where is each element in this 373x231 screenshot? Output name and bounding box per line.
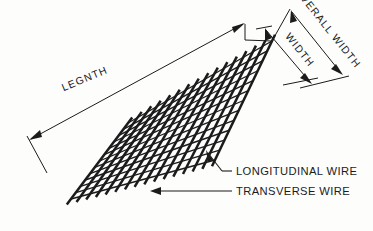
width-arrowhead-bottom xyxy=(300,73,312,84)
width-extension-top xyxy=(256,26,272,29)
overall-width-arrowhead-bottom xyxy=(331,64,343,75)
length-extension-line-left xyxy=(27,136,47,173)
longitudinal-wire xyxy=(109,81,253,149)
transverse-wire-label: TRANSVERSE WIRE xyxy=(236,185,350,197)
longitudinal-wire xyxy=(119,61,263,136)
length-arrowhead-left xyxy=(29,130,42,140)
length-arrowhead-right xyxy=(232,23,245,33)
transverse-wire-callout xyxy=(150,187,232,195)
width-arrowhead-top xyxy=(265,28,272,41)
length-label: LEGNTH xyxy=(60,64,109,93)
width-extension-bottom xyxy=(283,78,318,85)
drawing-canvas: LEGNTH OVERALL WIDTH WIDTH xyxy=(0,0,373,231)
wire-mesh-figure: LEGNTH OVERALL WIDTH WIDTH xyxy=(0,0,373,231)
length-extension-line-right-b xyxy=(245,40,272,41)
wire-mesh-grid xyxy=(67,35,275,205)
transverse-leader-arrowhead xyxy=(150,187,161,195)
longitudinal-wire-label: LONGITUDINAL WIRE xyxy=(236,165,357,177)
